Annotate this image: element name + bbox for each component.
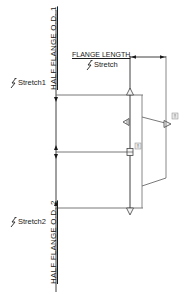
stretch2-label: Stretch2: [18, 218, 46, 226]
stretch1-label: Stretch1: [18, 79, 46, 87]
point-grip-icon[interactable]: [127, 149, 133, 156]
triangle-up-grip-icon[interactable]: [127, 88, 134, 95]
stretch-action-icon: [10, 78, 18, 88]
connector-lower[interactable]: [142, 178, 166, 186]
stretch2-parameter[interactable]: Stretch2: [10, 217, 46, 227]
stretch-action-icon: [86, 60, 94, 70]
flange-length-label: FLANGE LENGTH: [72, 51, 130, 58]
alert-badge-lower[interactable]: !: [135, 143, 141, 149]
connector-upper[interactable]: [142, 117, 165, 123]
half-flange-od-2-label: HALF FLANGE O.D. 2: [50, 200, 58, 284]
alert-badge-upper[interactable]: !: [172, 113, 178, 119]
stretch-action-icon: [10, 217, 18, 227]
svg-text:!: !: [137, 143, 138, 149]
svg-text:!: !: [174, 113, 175, 119]
triangle-left-grip-icon[interactable]: [123, 119, 129, 126]
stretch1-parameter[interactable]: Stretch1: [10, 78, 46, 88]
block-editor-canvas[interactable]: ! !: [0, 0, 183, 304]
stretch-parameter[interactable]: Stretch: [86, 60, 118, 70]
half-flange-od-1-label: HALF FLANGE O.D. 1: [50, 6, 58, 90]
stretch-label: Stretch: [94, 61, 118, 69]
triangle-down-grip-icon[interactable]: [127, 208, 134, 215]
triangle-right-grip-icon[interactable]: [164, 121, 171, 128]
